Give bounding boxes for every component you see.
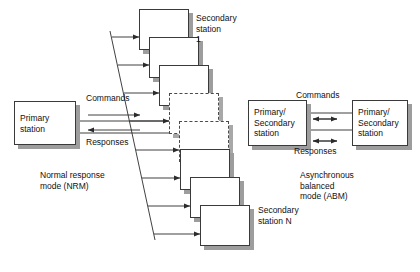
primary-station-box[interactable]: Primary station [14, 101, 76, 145]
abm-right-station-label: Primary/ Secondary station [358, 107, 399, 139]
abm-right-station-box[interactable]: Primary/ Secondary station [352, 100, 408, 146]
abm-trunk-lines [307, 113, 352, 130]
secondary-station-box-8[interactable] [200, 205, 250, 246]
commands-label-abm: Commands [296, 90, 339, 101]
responses-label-abm: Responses [294, 146, 337, 157]
commands-label-nrm: Commands [86, 93, 129, 104]
abm-caption: Asynchronous balanced mode (ABM) [300, 170, 354, 202]
primary-station-label: Primary station [20, 113, 49, 134]
secondary-station-first-label: Secondary station 1 [196, 13, 237, 45]
abm-left-station-label: Primary/ Secondary station [254, 107, 295, 139]
abm-left-station-box[interactable]: Primary/ Secondary station [248, 100, 307, 146]
nrm-caption: Normal response mode (NRM) [40, 170, 105, 191]
secondary-station-last-label: Secondary station N [258, 205, 299, 226]
responses-label-nrm: Responses [86, 137, 129, 148]
diagram-canvas: Primary station Commands Responses Norma… [0, 0, 420, 272]
